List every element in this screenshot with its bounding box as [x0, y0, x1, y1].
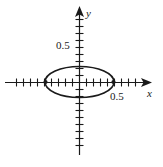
x-axis-label: x: [147, 88, 152, 99]
y-axis-tick-label: 0.5: [56, 40, 70, 51]
y-axis-label: y: [86, 8, 91, 19]
x-axis-tick-label: 0.5: [110, 91, 124, 102]
vertex-marker-right: [111, 80, 115, 84]
vertex-marker-left: [43, 80, 47, 84]
coordinate-plane-svg: [0, 0, 163, 167]
graph-figure: y x 0.5 0.5: [0, 0, 163, 167]
